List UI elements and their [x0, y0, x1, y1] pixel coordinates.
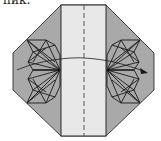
origami-diagram: [0, 0, 161, 141]
